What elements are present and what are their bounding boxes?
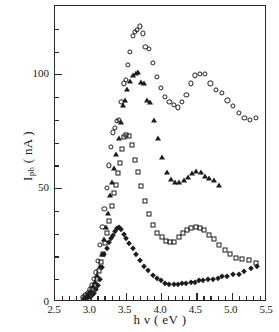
axis-tick — [140, 296, 141, 300]
axis-tick — [55, 143, 59, 144]
data-point — [100, 264, 105, 269]
axis-tick — [55, 165, 59, 166]
y-axis-title-subscript: ph — [26, 167, 36, 177]
data-point — [225, 273, 230, 278]
data-point — [248, 265, 253, 270]
y-axis-title-main: I — [20, 176, 35, 181]
axis-tick — [55, 29, 59, 30]
data-point — [98, 277, 103, 282]
axis-tick — [246, 296, 247, 300]
data-point — [137, 257, 142, 262]
axis-tick — [83, 296, 84, 300]
axis-tick — [239, 296, 240, 300]
axis-tick — [203, 296, 204, 300]
axis-tick — [168, 296, 169, 300]
axis-tick — [225, 296, 226, 300]
data-point — [255, 263, 260, 268]
data-point — [236, 271, 241, 276]
data-point — [104, 246, 109, 251]
plot-frame — [54, 5, 266, 301]
axis-tick — [133, 296, 134, 300]
axis-tick — [76, 296, 77, 300]
axis-tick — [196, 293, 197, 300]
axis-tick — [55, 256, 59, 257]
data-point — [205, 277, 210, 282]
photocurrent-spectrum-figure: 2.53.03.54.04.55.05.5 050100 h ν ( eV ) … — [0, 0, 279, 332]
data-point — [231, 271, 236, 276]
axis-tick — [55, 52, 59, 53]
axis-tick — [260, 296, 261, 300]
data-point — [96, 282, 101, 287]
axis-tick — [182, 296, 183, 300]
y-tick-label: 100 — [22, 68, 49, 79]
axis-tick — [55, 188, 62, 189]
axis-tick — [253, 296, 254, 300]
axis-tick — [232, 293, 233, 300]
x-axis-title: h ν ( eV ) — [54, 312, 266, 328]
y-tick-label: 0 — [22, 296, 49, 307]
axis-tick — [210, 296, 211, 300]
data-point — [142, 263, 147, 268]
y-axis-title-unit: ( nA ) — [20, 131, 35, 163]
axis-tick — [90, 293, 91, 300]
axis-tick — [55, 234, 59, 235]
plot-data-area — [55, 6, 265, 300]
axis-tick — [55, 97, 59, 98]
data-point — [102, 252, 107, 257]
data-point — [127, 240, 132, 245]
data-point — [134, 252, 139, 257]
axis-tick — [119, 296, 120, 300]
axis-tick — [62, 296, 63, 300]
axis-tick — [126, 293, 127, 300]
axis-tick — [161, 293, 162, 300]
series-diamonds — [55, 6, 265, 300]
axis-tick — [55, 120, 59, 121]
axis-tick — [218, 296, 219, 300]
data-point — [146, 268, 151, 273]
axis-tick — [55, 211, 59, 212]
axis-tick — [104, 296, 105, 300]
axis-tick — [175, 296, 176, 300]
axis-tick — [112, 296, 113, 300]
y-axis-title: Iph ( nA ) — [20, 101, 36, 211]
axis-tick — [147, 296, 148, 300]
axis-tick — [55, 74, 62, 75]
data-point — [242, 269, 247, 274]
axis-tick — [55, 279, 59, 280]
axis-tick — [154, 296, 155, 300]
axis-tick — [189, 296, 190, 300]
axis-tick — [97, 296, 98, 300]
axis-tick — [69, 296, 70, 300]
data-point — [130, 246, 135, 251]
